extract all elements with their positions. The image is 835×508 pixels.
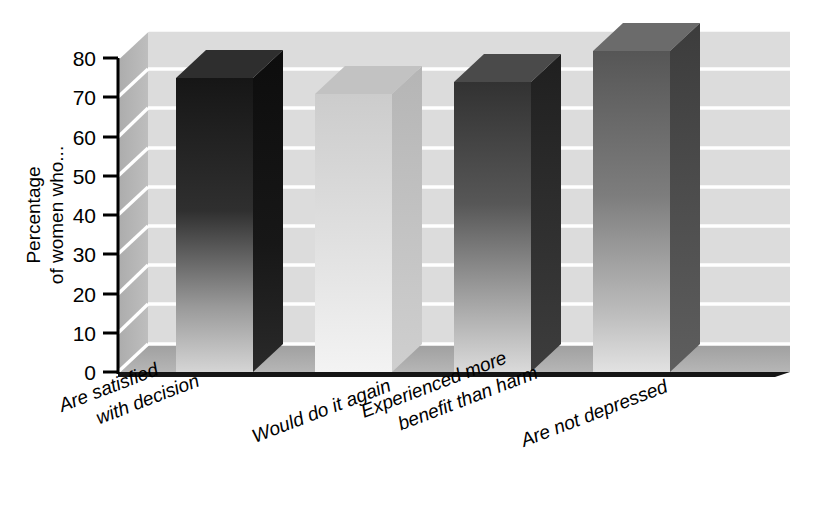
bar-chart-figure: 0 10 20 30 40 50 60 70 80 Percentage of …	[0, 0, 835, 508]
y-tick-label-80: 80	[73, 47, 96, 70]
y-tick-label-50: 50	[73, 165, 96, 188]
bar-are-satisfied-with-decision[interactable]	[176, 50, 283, 372]
bar-front-face	[593, 51, 670, 372]
y-tick-label-40: 40	[73, 204, 96, 227]
bar-front-face	[315, 94, 392, 372]
y-tick-label-10: 10	[73, 322, 96, 345]
bar-side-face	[253, 50, 283, 372]
chart-canvas: 0 10 20 30 40 50 60 70 80 Percentage of …	[0, 0, 835, 508]
bar-are-not-depressed[interactable]	[593, 23, 700, 372]
y-axis-ticks	[103, 58, 118, 372]
y-tick-labels: 0 10 20 30 40 50 60 70 80	[73, 47, 96, 384]
category-label-suffix: depressed	[575, 375, 672, 429]
bar-would-do-it-again[interactable]	[315, 66, 422, 372]
category-label-are-not-depressed: Are not depressed	[517, 375, 672, 451]
y-tick-label-60: 60	[73, 126, 96, 149]
bar-side-face	[670, 23, 700, 372]
bar-front-face	[176, 78, 253, 372]
bar-side-face	[531, 54, 561, 372]
y-tick-label-30: 30	[73, 243, 96, 266]
y-tick-label-70: 70	[73, 86, 96, 109]
y-axis-title: Percentage of women who...	[23, 146, 67, 284]
category-label-line1: Are not depressed	[517, 375, 672, 451]
y-axis	[103, 58, 118, 374]
bar-side-face	[392, 66, 422, 372]
bar-front-face	[454, 82, 531, 372]
y-axis-title-line2: of women who...	[46, 146, 67, 284]
bar-experienced-more-benefit-than-harm[interactable]	[454, 54, 561, 372]
y-tick-label-20: 20	[73, 283, 96, 306]
y-axis-title-line1: Percentage	[23, 166, 44, 263]
